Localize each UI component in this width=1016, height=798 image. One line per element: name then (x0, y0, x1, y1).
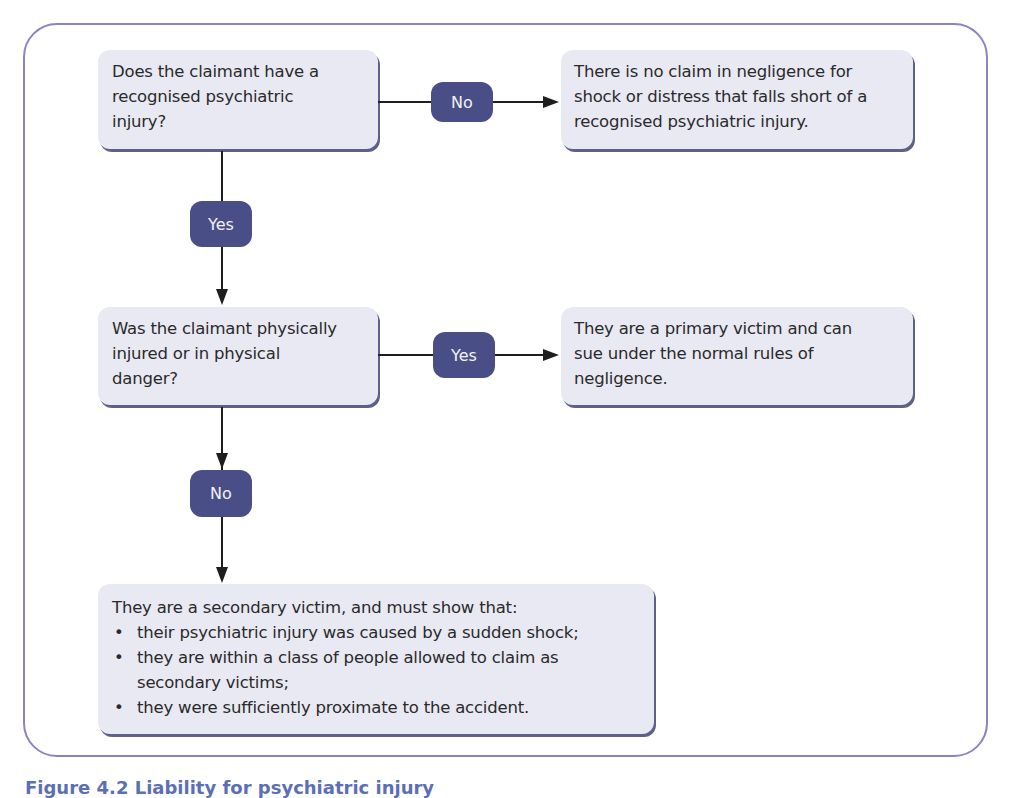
edge-label-yes-q2: Yes (433, 332, 495, 378)
secondary-victim-requirements: their psychiatric injury was caused by a… (112, 620, 640, 720)
result-primary-victim-text: They are a primary victim and can sue un… (574, 316, 864, 391)
result-secondary-victim-intro: They are a secondary victim, and must sh… (112, 595, 640, 620)
question-physical-danger-text: Was the claimant physically injured or i… (112, 316, 342, 391)
edge-label-no-q1: No (431, 82, 493, 122)
edge-label-yes-q1: Yes (190, 201, 252, 247)
requirement-item: they are within a class of people allowe… (112, 645, 577, 695)
result-primary-victim: They are a primary victim and can sue un… (561, 307, 913, 405)
result-no-claim: There is no claim in negligence for shoc… (561, 50, 913, 149)
edge-label-no-q2: No (190, 470, 252, 517)
requirement-item: they were sufficiently proximate to the … (112, 695, 640, 720)
question-physical-danger: Was the claimant physically injured or i… (98, 307, 378, 405)
result-secondary-victim: They are a secondary victim, and must sh… (98, 584, 654, 734)
question-psychiatric-injury: Does the claimant have a recognised psyc… (98, 50, 378, 149)
arrow-down-icon (216, 453, 228, 469)
figure-caption: Figure 4.2 Liability for psychiatric inj… (25, 777, 434, 798)
arrow-down-icon (216, 289, 228, 305)
result-no-claim-text: There is no claim in negligence for shoc… (574, 59, 884, 134)
arrow-right-icon (543, 349, 559, 361)
arrow-down-icon (216, 567, 228, 583)
question-psychiatric-injury-text: Does the claimant have a recognised psyc… (112, 59, 332, 134)
arrow-right-icon (543, 96, 559, 108)
requirement-item: their psychiatric injury was caused by a… (112, 620, 640, 645)
